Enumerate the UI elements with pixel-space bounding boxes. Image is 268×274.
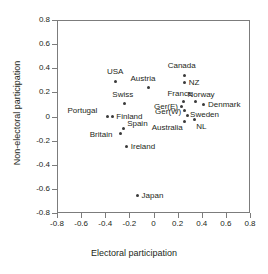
data-point[interactable] <box>202 103 205 106</box>
data-point-label: Norway <box>188 91 215 99</box>
data-point[interactable] <box>183 81 186 84</box>
y-axis-label: Non-electoral participation <box>12 13 22 213</box>
x-tick-label: -0.8 <box>50 220 64 228</box>
y-tick-label: 0 <box>46 113 50 121</box>
data-point[interactable] <box>106 115 109 118</box>
y-tick-label: -0.2 <box>36 137 50 145</box>
data-point-label: Portugal <box>67 107 97 115</box>
data-point-label: NZ <box>189 79 200 87</box>
x-tick-mark <box>81 213 82 218</box>
x-axis-label: Electoral participation <box>0 248 268 258</box>
scatter-chart: Non-electoral participation Electoral pa… <box>0 0 268 274</box>
data-point[interactable] <box>193 118 196 121</box>
data-point-label: USA <box>107 68 123 76</box>
y-tick-label: -0.8 <box>36 209 50 217</box>
x-tick-label: 0 <box>151 220 155 228</box>
data-point[interactable] <box>122 127 125 130</box>
data-point[interactable] <box>111 115 114 118</box>
plot-area: USACanadaNZAustriaSwissFranceNorwayDenma… <box>57 20 250 213</box>
x-tick-label: 0.8 <box>244 220 255 228</box>
data-point[interactable] <box>114 80 117 83</box>
y-tick-label: 0.6 <box>39 40 50 48</box>
x-tick-mark <box>105 213 106 218</box>
data-point[interactable] <box>194 100 197 103</box>
data-point[interactable] <box>119 132 122 135</box>
data-point[interactable] <box>183 120 186 123</box>
data-point-label: Spain <box>127 120 147 128</box>
y-tick-label: 0.8 <box>39 16 50 24</box>
x-tick-label: -0.2 <box>122 220 136 228</box>
data-point-label: Denmark <box>208 101 240 109</box>
y-tick-label: -0.6 <box>36 185 50 193</box>
x-tick-mark <box>226 213 227 218</box>
data-point[interactable] <box>182 100 185 103</box>
x-tick-label: 0.2 <box>172 220 183 228</box>
data-point[interactable] <box>125 145 128 148</box>
data-point[interactable] <box>147 86 150 89</box>
data-point-label: Ireland <box>131 143 155 151</box>
data-point-label: Australia <box>152 124 183 132</box>
x-tick-label: -0.4 <box>98 220 112 228</box>
x-tick-mark <box>250 213 251 218</box>
data-point[interactable] <box>186 114 189 117</box>
data-point-label: NL <box>196 123 206 131</box>
x-tick-label: -0.6 <box>74 220 88 228</box>
data-point[interactable] <box>123 102 126 105</box>
x-tick-label: 0.4 <box>196 220 207 228</box>
x-tick-mark <box>202 213 203 218</box>
x-tick-mark <box>154 213 155 218</box>
data-point-label: Britain <box>90 131 113 139</box>
y-tick-label: 0.2 <box>39 88 50 96</box>
data-point-label: Austria <box>130 75 155 83</box>
data-point-label: Swiss <box>112 91 133 99</box>
x-tick-mark <box>178 213 179 218</box>
data-point-label: Japan <box>142 192 164 200</box>
y-tick-label: 0.4 <box>39 64 50 72</box>
data-point-label: Canada <box>168 62 196 70</box>
data-point[interactable] <box>183 109 186 112</box>
x-tick-label: 0.6 <box>220 220 231 228</box>
data-point-label: Ger(W) <box>155 108 181 116</box>
x-tick-mark <box>57 213 58 218</box>
data-point[interactable] <box>183 74 186 77</box>
x-tick-mark <box>129 213 130 218</box>
data-point[interactable] <box>136 194 139 197</box>
y-tick-label: -0.4 <box>36 161 50 169</box>
